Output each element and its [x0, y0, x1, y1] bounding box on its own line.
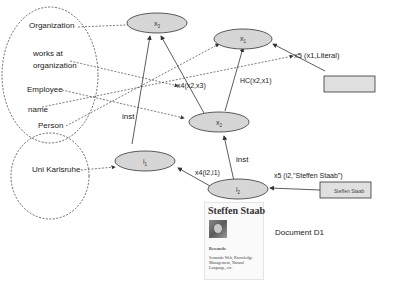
edge-label-x5-i2-staab: x5 (i2,"Steffen Staab")	[274, 172, 343, 179]
document-body: Semantic Web, Knowledge Management, Natu…	[209, 255, 261, 270]
edge-i1-x3-inst	[132, 36, 150, 144]
edge-label-x5-x1-literal: x5 (x1,Literal)	[294, 52, 339, 60]
document-title: Steffen Staab	[208, 205, 265, 216]
face-icon	[214, 224, 222, 233]
map-uni-i1	[81, 167, 115, 170]
node-x1[interactable]: x1	[214, 29, 272, 49]
edge-label-x4-x2-x3: x4(x2,x3)	[177, 82, 206, 89]
document-caption: Document D1	[275, 229, 324, 237]
edge-x2-x3	[161, 36, 204, 113]
label-person: Person	[38, 122, 63, 130]
document-section: Research:	[209, 246, 226, 251]
edge-label-hc: HC(x2,x1)	[240, 77, 272, 84]
portrait-photo	[209, 220, 227, 238]
literal-box-empty[interactable]	[324, 76, 375, 92]
edge-label-inst-bottom: inst	[236, 156, 248, 164]
map-worksat-x4	[70, 61, 178, 86]
document-d1[interactable]: Steffen Staab Research: Semantic Web, Kn…	[204, 202, 264, 280]
label-employee: Employee	[27, 86, 63, 94]
label-works-at-1: works at	[33, 50, 63, 58]
diagram-canvas: x3 x1 x2 i1 i2	[0, 0, 393, 281]
label-name: name	[28, 106, 48, 114]
label-uni-karlsruhe: Uni Karlsruhe	[32, 166, 80, 174]
node-x2[interactable]: x2	[189, 112, 249, 132]
edge-label-inst-top: inst	[122, 113, 134, 121]
node-i2[interactable]: i2	[208, 179, 268, 199]
edge-label-x4-i2-i1: x4(i2,i1)	[195, 169, 220, 176]
edge-i2-x2-inst	[224, 136, 234, 181]
instance-region	[11, 133, 89, 219]
node-x3[interactable]: x3	[127, 13, 187, 33]
node-i1[interactable]: i1	[115, 151, 175, 171]
edge-staab-i2	[270, 188, 320, 190]
literal-steffen-text: Steffen Staab	[334, 188, 364, 194]
label-organization: Organization	[29, 22, 74, 30]
label-works-at-2: organization	[33, 62, 77, 70]
